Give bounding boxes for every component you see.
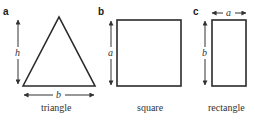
- geometry-shapes-diagram: a h b triangle b a square c a b rectangl…: [0, 0, 255, 126]
- height-label: h: [15, 47, 20, 58]
- width-label: a: [226, 7, 231, 18]
- rectangle-shape: [212, 20, 246, 86]
- panel-letter-a: a: [3, 6, 9, 17]
- panel-c-rectangle: c a b rectangle: [193, 6, 246, 113]
- side-label: a: [108, 47, 113, 58]
- panel-letter-b: b: [98, 6, 104, 17]
- height-label-rect: b: [202, 47, 207, 58]
- panel-letter-c: c: [193, 6, 199, 17]
- triangle-shape: [23, 17, 95, 86]
- caption-rectangle: rectangle: [208, 102, 245, 113]
- panel-a-triangle: a h b triangle: [3, 6, 95, 113]
- caption-square: square: [137, 102, 164, 113]
- panel-b-square: b a square: [98, 6, 181, 113]
- caption-triangle: triangle: [41, 102, 72, 113]
- square-shape: [117, 20, 181, 86]
- base-label: b: [56, 89, 61, 100]
